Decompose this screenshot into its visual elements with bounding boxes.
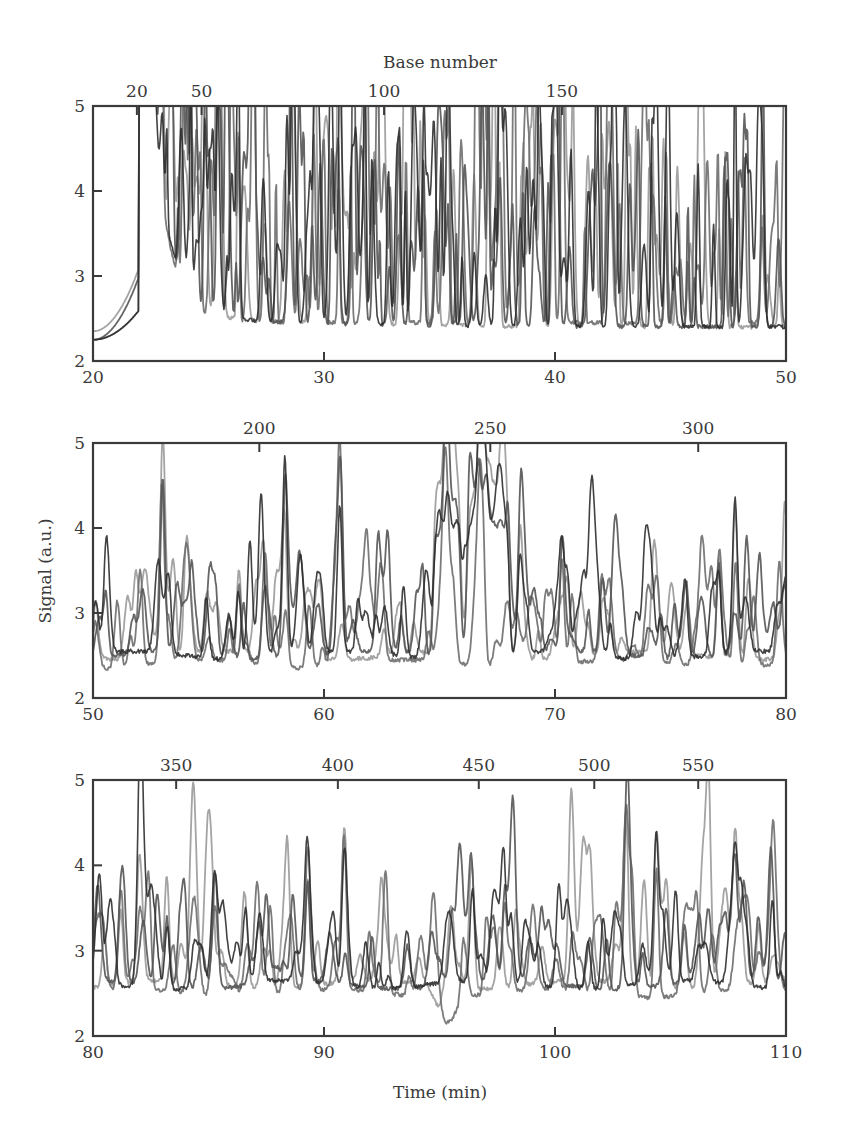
panel-middle: 506070802345200250300 [74, 346, 797, 724]
y-tick-label: 3 [74, 266, 85, 286]
top-tick-label: 500 [578, 755, 610, 775]
top-tick-label: 100 [368, 81, 400, 101]
x-tick-label: 30 [313, 367, 335, 387]
x-tick-label: 90 [313, 1042, 335, 1062]
top-tick-label: 300 [682, 418, 714, 438]
panel-bottom: 80901001102345350400450500550 [74, 720, 802, 1062]
trace-line [93, 805, 786, 1024]
x-tick-label: 110 [770, 1042, 802, 1062]
x-tick-label: 50 [82, 704, 104, 724]
top-tick-label: 20 [126, 81, 148, 101]
top-tick-label: 150 [546, 81, 578, 101]
traces [93, 0, 786, 340]
y-tick-label: 3 [74, 603, 85, 623]
x-tick-label: 60 [313, 704, 335, 724]
panels-group: 2030405023452050100150506070802345200250… [74, 0, 802, 1062]
x-axis-title: Time (min) [393, 1082, 487, 1102]
top-tick-label: 200 [243, 418, 275, 438]
y-tick-label: 4 [74, 181, 85, 201]
y-tick-label: 5 [74, 433, 85, 453]
top-tick-label: 50 [191, 81, 213, 101]
y-tick-label: 5 [74, 96, 85, 116]
y-tick-label: 5 [74, 770, 85, 790]
y-tick-label: 2 [74, 351, 85, 371]
x-tick-label: 100 [539, 1042, 571, 1062]
x-tick-label: 20 [82, 367, 104, 387]
x-tick-label: 40 [544, 367, 566, 387]
x-tick-label: 50 [775, 367, 797, 387]
y-axis-title: Signal (a.u.) [35, 518, 55, 623]
y-tick-label: 2 [74, 688, 85, 708]
y-tick-label: 3 [74, 941, 85, 961]
y-tick-label: 2 [74, 1026, 85, 1046]
x-tick-label: 80 [775, 704, 797, 724]
chart-figure: Base number Signal (a.u.) Time (min) 203… [0, 0, 843, 1142]
y-tick-label: 4 [74, 855, 85, 875]
top-tick-label: 450 [463, 755, 495, 775]
top-tick-label: 250 [474, 418, 506, 438]
x-tick-label: 70 [544, 704, 566, 724]
line-chart: Base number Signal (a.u.) Time (min) 203… [0, 0, 843, 1142]
x-tick-label: 80 [82, 1042, 104, 1062]
y-tick-label: 4 [74, 518, 85, 538]
top-tick-label: 400 [322, 755, 354, 775]
top-tick-label: 550 [682, 755, 714, 775]
top-tick-label: 350 [160, 755, 192, 775]
traces [93, 346, 786, 670]
top-axis-title: Base number [383, 52, 498, 72]
